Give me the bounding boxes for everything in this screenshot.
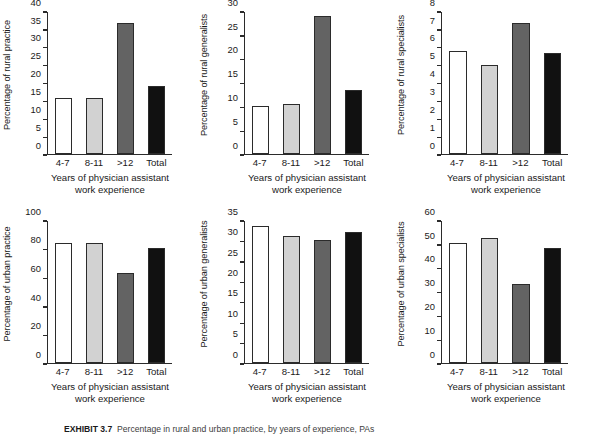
axes: 012345678 <box>441 12 568 155</box>
x-tick-labels: 4-78-11>12Total <box>244 366 369 379</box>
bar <box>117 23 134 153</box>
y-tick <box>437 65 441 66</box>
y-tick-label: 30 <box>425 277 435 288</box>
axes: 020406080100 <box>47 221 172 364</box>
y-tick-label: 30 <box>228 226 238 237</box>
y-tick-label: 4 <box>430 68 435 79</box>
y-tick-label: 25 <box>228 246 238 257</box>
y-tick <box>240 220 244 221</box>
x-axis-label-line2: work experience <box>426 184 586 196</box>
y-tick-label: 20 <box>228 266 238 277</box>
x-axis-label: Years of physician assistantwork experie… <box>227 381 387 404</box>
y-tick-label: 5 <box>233 328 238 339</box>
y-tick-label: 10 <box>425 324 435 335</box>
x-tick-labels: 4-78-11>12Total <box>47 157 172 170</box>
y-tick <box>43 101 47 102</box>
y-tick <box>43 119 47 120</box>
y-tick-label: 0 <box>430 348 435 359</box>
y-tick <box>437 101 441 102</box>
y-tick <box>240 261 244 262</box>
x-axis-label-line1: Years of physician assistant <box>30 172 190 184</box>
x-tick-label: 4-7 <box>56 157 70 168</box>
y-tick <box>43 335 47 336</box>
y-tick <box>437 11 441 12</box>
y-tick-label: 30 <box>31 32 41 43</box>
plot-area-rural-practice: Percentage of rural practice051015202530… <box>0 0 197 209</box>
x-tick-label: Total <box>146 157 166 168</box>
x-tick-label: 8-11 <box>85 157 104 168</box>
x-tick-label: >12 <box>314 157 330 168</box>
y-tick <box>43 11 47 12</box>
y-tick-label: 5 <box>36 121 41 132</box>
bar-series <box>442 221 568 363</box>
x-axis-label-line2: work experience <box>227 393 387 405</box>
y-tick <box>240 59 244 60</box>
y-tick <box>437 220 441 221</box>
y-tick-label: 25 <box>228 20 238 31</box>
y-axis-label: Percentage of rural specialists <box>396 0 410 150</box>
x-axis-label-line2: work experience <box>426 393 586 405</box>
x-tick-label: 4-7 <box>253 366 267 377</box>
x-axis-label: Years of physician assistantwork experie… <box>30 381 190 404</box>
axes: 051015202530 <box>244 12 369 155</box>
bar <box>117 273 134 362</box>
x-axis-label-line1: Years of physician assistant <box>30 381 190 393</box>
y-tick-label: 40 <box>425 253 435 264</box>
y-tick <box>240 363 244 364</box>
x-axis-spine <box>47 154 172 155</box>
y-tick <box>437 29 441 30</box>
y-tick-label: 2 <box>430 103 435 114</box>
figure-root: Percentage of rural practice051015202530… <box>0 0 593 435</box>
y-tick-label: 15 <box>228 287 238 298</box>
bar <box>86 243 103 362</box>
y-tick <box>437 154 441 155</box>
y-tick-label: 80 <box>31 234 41 245</box>
y-tick-label: 40 <box>31 0 41 7</box>
bar <box>449 243 467 362</box>
y-tick <box>240 302 244 303</box>
y-tick-label: 5 <box>430 50 435 61</box>
y-tick <box>240 241 244 242</box>
y-axis-label: Percentage of urban practice <box>2 209 16 359</box>
y-tick-label: 20 <box>31 320 41 331</box>
y-axis-label: Percentage of urban generalists <box>199 209 213 359</box>
y-tick <box>437 119 441 120</box>
y-axis-label: Percentage of rural generalists <box>199 0 213 150</box>
x-tick-label: >12 <box>117 366 133 377</box>
bar <box>314 16 331 154</box>
y-tick-label: 35 <box>228 205 238 216</box>
bar <box>512 284 530 362</box>
bar <box>544 248 562 363</box>
y-tick-label: 5 <box>233 115 238 126</box>
y-tick-label: 25 <box>31 50 41 61</box>
x-axis-label: Years of physician assistantwork experie… <box>30 172 190 195</box>
x-tick-label: 8-11 <box>479 157 498 168</box>
caption-label: EXHIBIT 3.7 <box>64 424 112 434</box>
bar-series <box>442 12 568 154</box>
y-tick-label: 10 <box>228 92 238 103</box>
x-axis-label-line1: Years of physician assistant <box>227 172 387 184</box>
bar <box>148 86 165 154</box>
bar <box>283 236 300 363</box>
axes: 0102030405060 <box>441 221 568 364</box>
x-axis-spine <box>47 363 172 364</box>
bar-series <box>245 221 369 363</box>
y-tick-label: 50 <box>425 229 435 240</box>
y-tick-label: 20 <box>425 301 435 312</box>
y-tick <box>240 83 244 84</box>
y-tick <box>43 29 47 30</box>
x-tick-label: 8-11 <box>85 366 104 377</box>
plot-area-urban-specialists: Percentage of urban specialists010203040… <box>394 209 593 418</box>
x-tick-label: >12 <box>314 366 330 377</box>
bar-series <box>48 221 172 363</box>
y-tick <box>43 137 47 138</box>
x-tick-label: Total <box>542 157 562 168</box>
bar <box>86 98 103 154</box>
y-tick <box>240 154 244 155</box>
bar <box>481 65 499 154</box>
y-tick-label: 35 <box>31 14 41 25</box>
chart-panel-urban-generalists: Percentage of urban generalists051015202… <box>197 209 394 418</box>
y-tick <box>240 282 244 283</box>
y-tick <box>240 11 244 12</box>
y-tick <box>240 343 244 344</box>
